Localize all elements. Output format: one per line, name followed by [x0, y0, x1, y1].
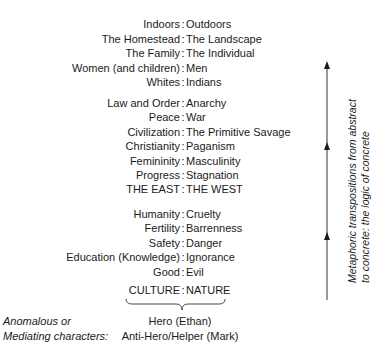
axis-label-line2: to concrete: the logic of concrete — [359, 97, 372, 283]
anti-hero-character: Anti-Hero/Helper (Mark) — [100, 330, 260, 342]
axis-label-line1: Metaphoric transpositions from abstract — [346, 97, 359, 283]
mediating-label-line2: Mediating characters: — [3, 330, 108, 342]
axis-arrow-icon — [0, 0, 390, 352]
axis-label: Metaphoric transpositions from abstract … — [342, 97, 376, 283]
hero-character: Hero (Ethan) — [100, 315, 260, 327]
mediating-label-line1: Anomalous or — [3, 315, 71, 327]
